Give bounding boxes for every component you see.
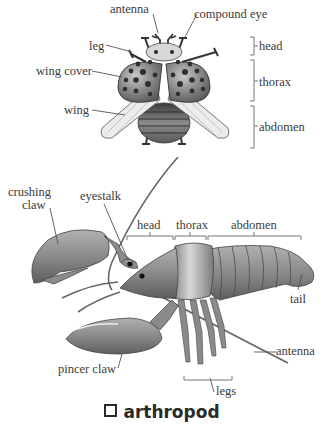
diagram-title-text: arthropod	[123, 402, 219, 422]
lobster-pincer-arm	[150, 300, 178, 330]
label-leg: leg	[89, 39, 105, 53]
square-bullet-icon	[104, 404, 117, 417]
lobster-eye	[127, 261, 132, 266]
beetle-eye	[154, 50, 158, 54]
label-wing: wing	[64, 103, 90, 117]
beetle-illustration	[101, 34, 229, 144]
label-lobster-antenna: antenna	[276, 344, 315, 358]
label-lobster-head: head	[137, 218, 161, 232]
beetle-wing-cover-right	[166, 62, 210, 102]
label-beetle-head: head	[259, 39, 283, 53]
label-tail: tail	[290, 292, 306, 306]
arthropod-diagram: antenna compound eye leg wing cover wing…	[0, 0, 324, 438]
beetle-segment-brackets	[250, 37, 258, 148]
lobster-illustration	[32, 157, 314, 364]
label-beetle-abdomen: abdomen	[259, 120, 306, 134]
label-lobster-thorax: thorax	[176, 218, 209, 232]
beetle-eye	[170, 50, 174, 54]
lobster-eye	[139, 273, 144, 278]
beetle-wing-cover-left	[118, 62, 162, 102]
lobster-head	[120, 248, 178, 298]
lobster-walking-legs	[178, 298, 226, 364]
label-beetle-antenna: antenna	[110, 2, 149, 16]
label-beetle-thorax: thorax	[259, 75, 292, 89]
label-eyestalk: eyestalk	[80, 189, 122, 203]
beetle-head	[146, 43, 182, 61]
label-pincer-claw: pincer claw	[58, 362, 116, 376]
lobster-antennule	[78, 292, 120, 312]
label-wing-cover: wing cover	[36, 64, 93, 78]
lobster-segment-brackets	[127, 232, 301, 240]
label-crushing-claw-line1: crushing	[8, 185, 52, 199]
diagram-title: arthropod	[0, 402, 324, 422]
label-legs: legs	[216, 384, 236, 398]
label-crushing-claw-line2: claw	[22, 198, 46, 212]
legs-bracket	[184, 376, 232, 380]
label-lobster-abdomen: abdomen	[231, 218, 278, 232]
label-compound-eye: compound eye	[194, 7, 268, 21]
